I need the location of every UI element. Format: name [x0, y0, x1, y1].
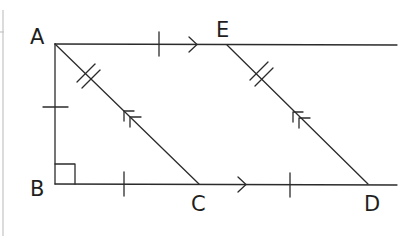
- point-label-d: D: [364, 192, 380, 216]
- point-label-e: E: [216, 18, 229, 42]
- parallel-arrow-ed-2: [299, 118, 310, 128]
- geometry-diagram: A E B C D: [0, 0, 417, 243]
- segment-ed: [227, 45, 368, 184]
- parallel-arrow-ed-1: [293, 112, 303, 122]
- point-label-a: A: [30, 25, 45, 49]
- segment-bd-ray: [55, 184, 397, 185]
- right-angle-marker: [55, 164, 75, 184]
- point-label-c: C: [191, 192, 206, 216]
- segment-ae-ray: [55, 44, 397, 45]
- double-tick-ed-2: [255, 68, 273, 86]
- double-tick-ac-1: [77, 64, 95, 82]
- point-label-b: B: [30, 177, 44, 201]
- segment-ac: [55, 44, 199, 184]
